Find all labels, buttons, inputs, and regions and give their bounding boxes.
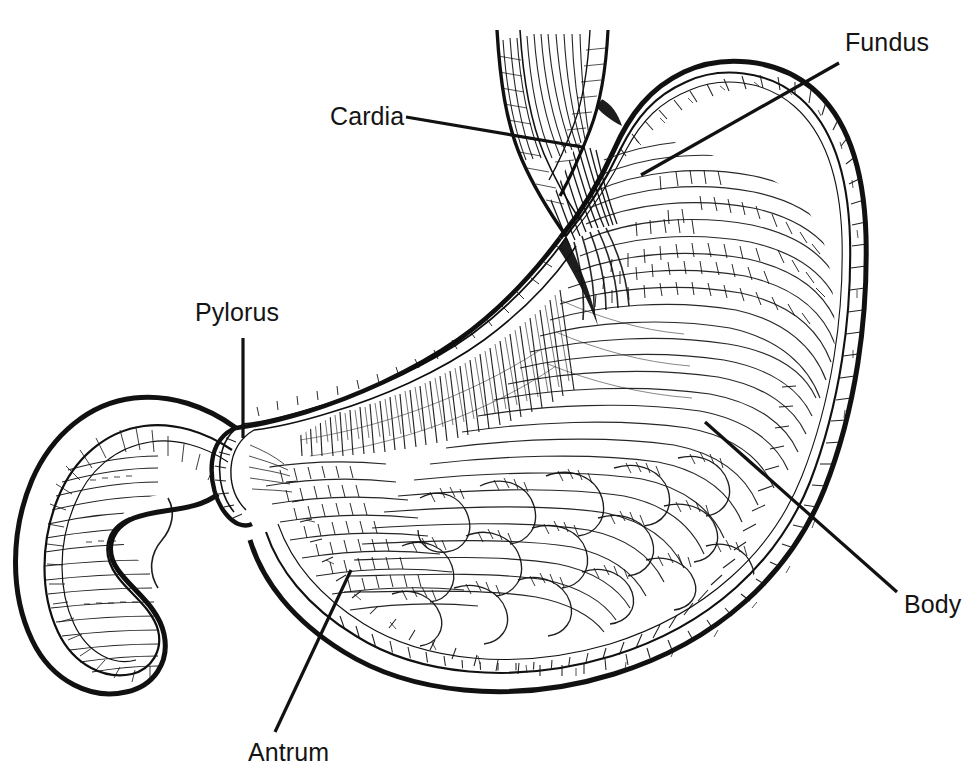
- label-fundus: Fundus: [845, 29, 929, 55]
- stomach-illustration: [0, 0, 976, 782]
- label-pylorus: Pylorus: [195, 299, 279, 325]
- label-body: Body: [904, 591, 961, 617]
- stomach-anatomy-figure: Fundus Cardia Pylorus Body Antrum: [0, 0, 976, 782]
- label-antrum: Antrum: [248, 739, 329, 765]
- label-cardia: Cardia: [330, 103, 404, 129]
- figure-background: [0, 0, 976, 782]
